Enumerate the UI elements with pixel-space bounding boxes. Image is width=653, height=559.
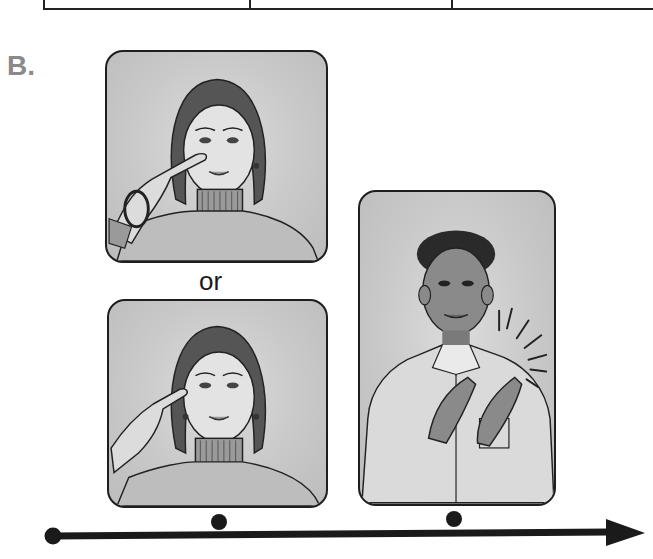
panel-boy-clapping xyxy=(358,190,556,506)
boy-clapping-illustration xyxy=(360,192,554,504)
panel-woman-temple xyxy=(107,299,328,508)
timeline-start-dot xyxy=(45,528,62,545)
section-label: B. xyxy=(7,50,35,82)
table-fragment xyxy=(43,0,653,10)
woman-touching-nose-illustration xyxy=(107,52,326,261)
arrowhead-icon xyxy=(606,519,645,546)
timeline-marker-2 xyxy=(446,511,462,527)
timeline-marker-1 xyxy=(211,514,227,530)
timeline-line xyxy=(53,532,610,536)
table-column-divider xyxy=(451,0,453,8)
table-column-divider xyxy=(249,0,251,8)
panel-woman-nose xyxy=(105,50,328,263)
woman-touching-temple-illustration xyxy=(109,301,326,506)
or-separator: or xyxy=(199,266,222,297)
